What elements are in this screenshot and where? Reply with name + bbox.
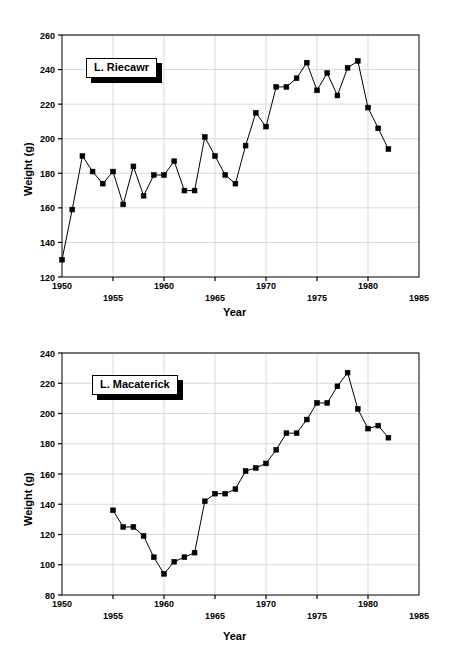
x-axis-title: Year	[223, 306, 246, 318]
series-label-riecawr: L. Riecawr	[86, 58, 157, 78]
figure-macaterick: 8010012014016018020022024019501955196019…	[0, 330, 464, 652]
svg-text:160: 160	[40, 470, 55, 480]
svg-text:1960: 1960	[154, 599, 174, 609]
svg-text:1965: 1965	[205, 293, 225, 303]
svg-text:140: 140	[40, 500, 55, 510]
svg-text:100: 100	[40, 560, 55, 570]
svg-text:240: 240	[40, 349, 55, 359]
svg-text:160: 160	[40, 203, 55, 213]
svg-text:1985: 1985	[409, 293, 429, 303]
svg-text:1980: 1980	[358, 281, 378, 291]
plot-area-riecawr: 1201401601802002202402601950195519601965…	[0, 0, 464, 330]
svg-text:1985: 1985	[409, 611, 429, 621]
plot-area-macaterick: 8010012014016018020022024019501955196019…	[0, 330, 464, 652]
svg-text:180: 180	[40, 439, 55, 449]
svg-text:1950: 1950	[52, 281, 72, 291]
svg-text:220: 220	[40, 100, 55, 110]
svg-text:1965: 1965	[205, 611, 225, 621]
x-axis-title: Year	[223, 630, 246, 642]
svg-text:120: 120	[40, 530, 55, 540]
figure-riecawr: 1201401601802002202402601950195519601965…	[0, 0, 464, 330]
svg-text:1975: 1975	[307, 293, 327, 303]
svg-text:200: 200	[40, 134, 55, 144]
svg-text:1970: 1970	[256, 281, 276, 291]
svg-text:180: 180	[40, 169, 55, 179]
y-axis-title: Weight (g)	[22, 142, 34, 196]
svg-text:260: 260	[40, 31, 55, 41]
svg-text:200: 200	[40, 409, 55, 419]
svg-text:140: 140	[40, 238, 55, 248]
chart-page: 1201401601802002202402601950195519601965…	[0, 0, 464, 652]
svg-text:240: 240	[40, 65, 55, 75]
svg-text:1980: 1980	[358, 599, 378, 609]
svg-text:1955: 1955	[103, 293, 123, 303]
svg-text:1950: 1950	[52, 599, 72, 609]
y-axis-title: Weight (g)	[22, 472, 34, 526]
svg-text:1955: 1955	[103, 611, 123, 621]
svg-text:1970: 1970	[256, 599, 276, 609]
series-label-macaterick: L. Macaterick	[92, 375, 178, 395]
svg-text:1960: 1960	[154, 281, 174, 291]
svg-text:1975: 1975	[307, 611, 327, 621]
svg-text:220: 220	[40, 379, 55, 389]
